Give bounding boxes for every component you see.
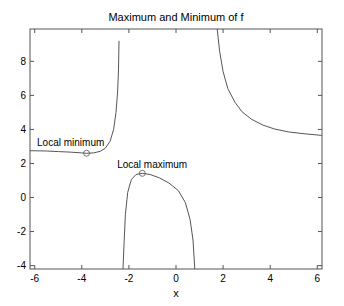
annotation-label: Local minimum (37, 137, 104, 148)
x-tick-label: 6 (315, 273, 321, 284)
x-tick-label: -4 (77, 273, 86, 284)
x-tick-label: -2 (124, 273, 133, 284)
x-axis-label: x (173, 287, 179, 299)
plot-area (30, 29, 322, 269)
y-tick-label: 2 (20, 158, 26, 169)
x-tick-label: 4 (267, 273, 273, 284)
x-tick-label: 0 (173, 273, 179, 284)
y-tick-label: 6 (20, 90, 26, 101)
y-tick-label: 0 (20, 192, 26, 203)
y-tick-label: 8 (20, 56, 26, 67)
y-tick-label: 4 (20, 124, 26, 135)
line-chart: Maximum and Minimum of f -6-4-20246-4-20… (0, 0, 344, 306)
annotation-label: Local maximum (117, 159, 187, 170)
figure: Maximum and Minimum of f -6-4-20246-4-20… (0, 0, 344, 306)
y-tick-label: -4 (17, 260, 26, 271)
x-tick-label: 2 (220, 273, 226, 284)
x-tick-label: -6 (30, 273, 39, 284)
y-tick-label: -2 (17, 226, 26, 237)
chart-title: Maximum and Minimum of f (108, 11, 244, 23)
